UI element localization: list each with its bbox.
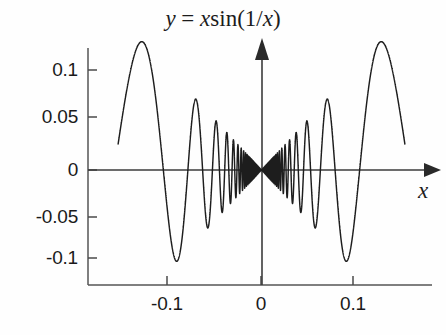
x-tick-label-0: 0 — [221, 293, 301, 315]
y-tick-label-neg0.1: -0.1 — [6, 247, 78, 269]
x-tick-label-0.1: 0.1 — [313, 293, 393, 315]
x-tick-label-neg0.1: -0.1 — [127, 293, 207, 315]
plot-frame — [88, 48, 432, 285]
y-tick-label-0.05: 0.05 — [10, 106, 78, 128]
y-tick-label-0: 0 — [10, 159, 78, 181]
x-tick-marks — [167, 276, 353, 285]
y-axis-arrow-icon — [255, 38, 269, 60]
x-axis-label: x — [418, 178, 428, 204]
y-tick-marks — [88, 70, 97, 258]
figure-canvas: y = xsin(1/x) 0.1 0.05 0 -0.05 - — [0, 0, 446, 335]
y-tick-label-neg0.05: -0.05 — [6, 206, 78, 228]
y-tick-label-0.1: 0.1 — [10, 59, 78, 81]
coordinate-axes — [88, 38, 441, 285]
x-axis-arrow-icon — [424, 163, 441, 177]
